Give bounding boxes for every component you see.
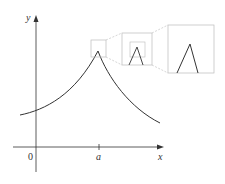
y-axis-label: y — [25, 12, 31, 23]
zoom-connector — [152, 25, 168, 33]
y-axis-arrow-icon — [34, 15, 39, 22]
x-axis-label: x — [157, 151, 163, 162]
zoom-connector — [106, 57, 122, 65]
zoom-connector — [106, 33, 122, 40]
tick-a-label: a — [96, 151, 101, 162]
figure: y x 0 a — [0, 0, 225, 184]
origin-label: 0 — [28, 151, 33, 162]
zoom-connector — [152, 65, 168, 73]
zoom-box-2 — [122, 33, 152, 65]
zoom-box-1 — [91, 40, 106, 57]
x-axis-arrow-icon — [157, 145, 164, 150]
